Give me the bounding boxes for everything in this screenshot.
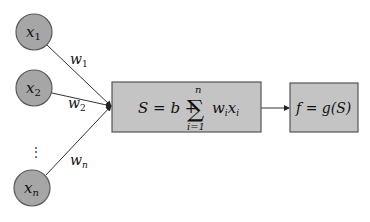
input-node-x2: x2	[16, 70, 52, 106]
activation-block: f = g(S)	[290, 83, 358, 132]
sigma-lower: i=1	[187, 121, 205, 132]
weight-wn: wn	[70, 152, 88, 170]
ellipsis: ⋮	[30, 145, 42, 159]
sigma-symbol: ∑	[187, 95, 204, 123]
input-node-xn: xn	[14, 170, 50, 206]
neuron-diagram: x1 x2 xn ⋮ w1 w2 wn S = b + ∑ n i=1 wixi…	[0, 0, 370, 222]
sigma-upper: n	[195, 84, 201, 95]
weight-w2: w2	[68, 95, 86, 113]
summation-block: S = b + ∑ n i=1 wixi	[112, 82, 261, 132]
activation-label: f = g(S)	[295, 100, 351, 116]
input-node-x1: x1	[16, 14, 52, 50]
weight-w1: w1	[70, 51, 88, 69]
